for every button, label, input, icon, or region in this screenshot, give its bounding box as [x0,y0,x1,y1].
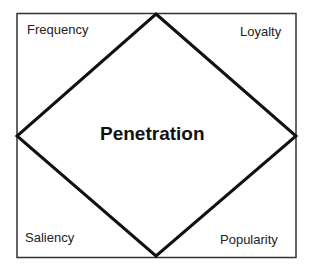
center-label-penetration: Penetration [100,123,205,145]
corner-label-loyalty: Loyalty [240,24,281,39]
corner-label-popularity: Popularity [220,232,278,247]
corner-label-saliency: Saliency [25,230,74,245]
corner-label-frequency: Frequency [27,22,88,37]
